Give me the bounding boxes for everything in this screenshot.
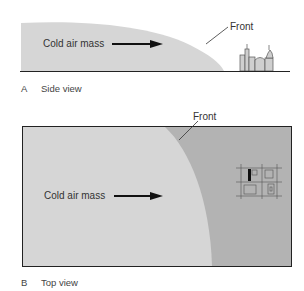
city-skyline-icon [240, 44, 273, 71]
side-view-air-mass-label: Cold air mass [43, 38, 104, 49]
side-view-caption-letter: A [21, 83, 27, 94]
top-view-front-label: Front [193, 111, 216, 122]
top-view-caption-letter: B [21, 277, 27, 288]
side-view-caption: Side view [41, 83, 82, 94]
top-view-caption: Top view [41, 277, 78, 288]
side-view-front-label: Front [230, 21, 253, 32]
top-view-air-mass-label: Cold air mass [44, 190, 105, 201]
side-view-front-leader [206, 27, 228, 44]
